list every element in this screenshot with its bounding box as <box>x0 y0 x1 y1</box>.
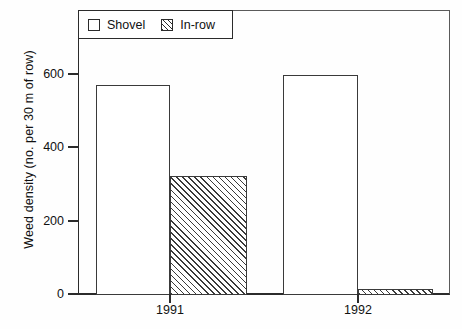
x-tick-mark-1992 <box>357 294 359 303</box>
y-tick-label-600: 600 <box>4 67 64 81</box>
bar-in-row-1992 <box>358 289 433 295</box>
y-tick-label-200: 200 <box>4 214 64 228</box>
bar-in-row-1991 <box>170 176 247 295</box>
bar-shovel-1992 <box>283 75 358 295</box>
legend-label-in-row: In-row <box>180 18 215 32</box>
bar-shovel-1991 <box>96 85 170 295</box>
x-tick-mark-1991 <box>169 294 171 303</box>
legend: Shovel In-row <box>78 10 233 39</box>
x-tick-label-1992: 1992 <box>323 303 393 317</box>
legend-entry-in-row: In-row <box>161 18 215 32</box>
hatched-square-icon <box>161 19 173 31</box>
y-tick-label-group: 600 400 200 0 <box>0 0 64 329</box>
y-tick-label-0: 0 <box>4 287 64 301</box>
chart-figure: Weed density (no. per 30 m of row) 600 4… <box>0 0 462 329</box>
x-tick-label-1991: 1991 <box>135 303 205 317</box>
legend-label-shovel: Shovel <box>107 18 145 32</box>
legend-entry-shovel: Shovel <box>88 18 145 32</box>
open-square-icon <box>88 19 100 31</box>
y-tick-label-400: 400 <box>4 140 64 154</box>
